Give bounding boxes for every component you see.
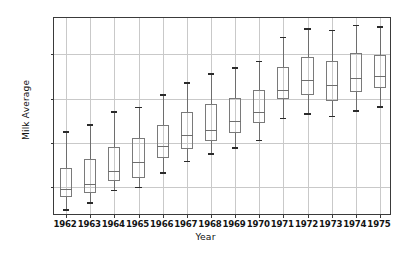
x-tick-mark-1973 (332, 214, 333, 218)
x-axis-title: Year (0, 231, 411, 242)
x-tick-label-1972: 1972 (294, 219, 320, 229)
x-tick-label-1974: 1974 (342, 219, 368, 229)
x-tick-label-1973: 1973 (318, 219, 344, 229)
whisker-upper (380, 26, 381, 55)
plot-area (53, 17, 391, 215)
x-tick-mark-1963 (90, 214, 91, 218)
x-tick-mark-1974 (356, 214, 357, 218)
x-tick-mark-1964 (114, 214, 115, 218)
cap-lower (377, 106, 383, 108)
y-tick-mark-800 (51, 99, 55, 100)
x-tick-label-1971: 1971 (269, 219, 295, 229)
x-tick-mark-1969 (235, 214, 236, 218)
x-tick-mark-1966 (163, 214, 164, 218)
x-tick-mark-1975 (380, 214, 381, 218)
x-tick-label-1967: 1967 (173, 219, 199, 229)
x-tick-label-1964: 1964 (100, 219, 126, 229)
whisker-lower (380, 88, 381, 107)
x-tick-mark-1965 (139, 214, 140, 218)
x-tick-mark-1971 (283, 214, 284, 218)
x-tick-label-1975: 1975 (366, 219, 392, 229)
y-axis-title-text: Milk Average (21, 128, 31, 140)
x-tick-label-1969: 1969 (221, 219, 247, 229)
y-tick-mark-700 (51, 143, 55, 144)
y-tick-mark-900 (51, 54, 55, 55)
box-iqr (374, 55, 386, 88)
y-tick-mark-600 (51, 187, 55, 188)
x-tick-label-1965: 1965 (125, 219, 151, 229)
x-tick-label-1966: 1966 (149, 219, 175, 229)
box-plot-1975 (54, 18, 392, 214)
x-tick-mark-1962 (66, 214, 67, 218)
x-tick-mark-1967 (187, 214, 188, 218)
x-tick-mark-1972 (308, 214, 309, 218)
x-tick-label-1970: 1970 (245, 219, 271, 229)
median-line (374, 76, 386, 77)
x-tick-label-1968: 1968 (197, 219, 223, 229)
cap-upper (377, 26, 383, 28)
x-tick-mark-1970 (259, 214, 260, 218)
boxplot-figure: Milk Average 600700800900 19621963196419… (0, 0, 411, 254)
x-tick-label-1962: 1962 (52, 219, 78, 229)
x-tick-mark-1968 (211, 214, 212, 218)
x-tick-label-1963: 1963 (76, 219, 102, 229)
y-axis-title: Milk Average (13, 66, 23, 78)
